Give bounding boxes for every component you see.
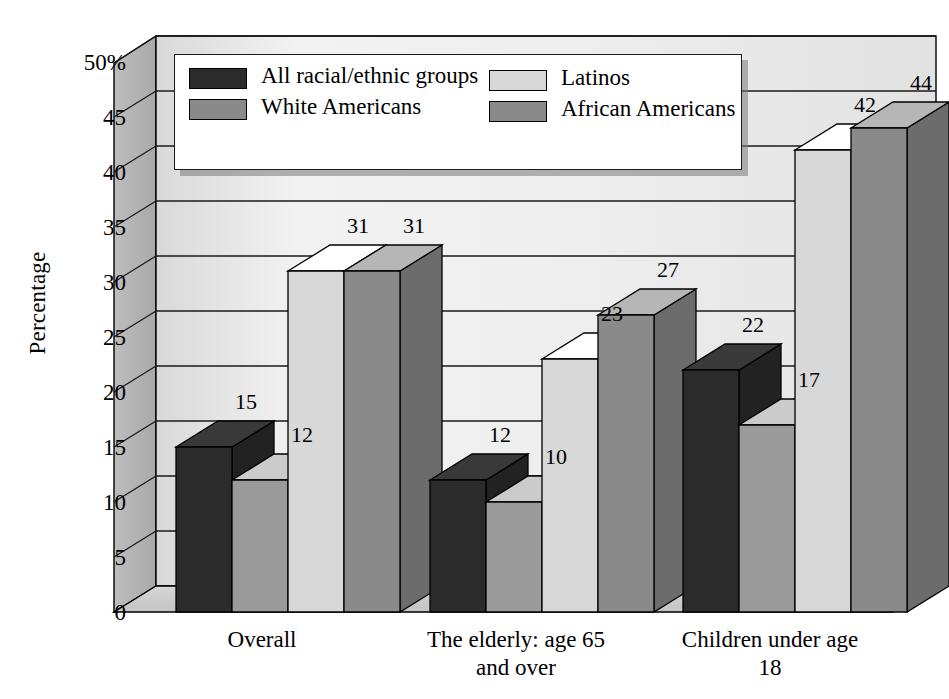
bar-value-label: 23 [601, 303, 623, 325]
chart-legend: All racial/ethnic groups White Americans… [174, 54, 742, 170]
x-axis-category-label: Overall [228, 626, 297, 654]
bar-2-4 [598, 289, 696, 612]
bar-value-label: 22 [742, 314, 764, 336]
bar-front-face [486, 502, 542, 612]
y-axis-tick-label: 45 [46, 106, 126, 129]
bar-value-label: 31 [347, 215, 369, 237]
y-axis-tick-label: 30 [46, 271, 126, 294]
legend-swatch-icon [189, 99, 247, 120]
bar-front-face [851, 128, 907, 612]
bar-value-label: 42 [854, 94, 876, 116]
bar-1-4 [344, 245, 442, 612]
bar-value-label: 31 [403, 215, 425, 237]
legend-entry-label: African Americans [561, 96, 735, 123]
bar-front-face [683, 370, 739, 612]
bar-side-face [907, 102, 949, 612]
legend-entry-all-racial-ethnic-groups: All racial/ethnic groups [189, 63, 489, 90]
bar-value-label: 44 [910, 72, 932, 94]
bar-3-4 [851, 102, 949, 612]
bar-front-face [344, 271, 400, 612]
y-axis-tick-label: 50% [46, 51, 126, 74]
bar-front-face [739, 425, 795, 612]
y-axis-tick-label: 40 [46, 161, 126, 184]
legend-entry-label: Latinos [561, 65, 630, 92]
y-axis-tick-label: 20 [46, 381, 126, 404]
y-axis-tick-label: 5 [46, 546, 126, 569]
legend-entry-label: All racial/ethnic groups [261, 63, 478, 90]
legend-swatch-icon [189, 68, 247, 89]
bar-value-label: 15 [235, 391, 257, 413]
y-axis-tick-label: 10 [46, 491, 126, 514]
legend-swatch-icon [489, 101, 547, 122]
y-axis-tick-label: 0 [46, 601, 126, 624]
x-axis-category-label: The elderly: age 65 and over [427, 626, 605, 681]
legend-entry-label: White Americans [261, 94, 421, 121]
bar-value-label: 17 [798, 369, 820, 391]
y-axis-tick-label: 15 [46, 436, 126, 459]
bar-value-label: 12 [291, 424, 313, 446]
legend-swatch-icon [489, 70, 547, 91]
legend-entry-white-americans: White Americans [189, 94, 489, 121]
bar-front-face [598, 315, 654, 612]
x-axis-category-label: Children under age 18 [681, 626, 860, 681]
bar-front-face [542, 359, 598, 612]
y-axis-tick-label: 25 [46, 326, 126, 349]
legend-entry-african-americans: African Americans [489, 96, 729, 123]
legend-column-right: Latinos African Americans [489, 63, 729, 163]
bar-value-label: 27 [657, 259, 679, 281]
bar-chart: 05101520253035404550% Percentage 1512313… [0, 0, 949, 699]
bar-front-face [176, 447, 232, 612]
bar-value-label: 12 [489, 424, 511, 446]
bar-front-face [232, 480, 288, 612]
bar-value-label: 10 [545, 446, 567, 468]
y-axis-ticks: 05101520253035404550% [46, 0, 126, 699]
y-axis-tick-label: 35 [46, 216, 126, 239]
bar-front-face [430, 480, 486, 612]
y-axis-title: Percentage [25, 203, 51, 403]
legend-entry-latinos: Latinos [489, 65, 729, 92]
legend-column-left: All racial/ethnic groups White Americans [189, 63, 489, 163]
